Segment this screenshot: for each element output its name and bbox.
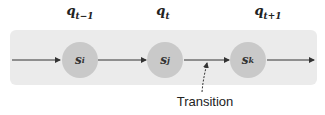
time-label-t-minus-1: qt−1 [66, 3, 93, 21]
time-label-t-plus-1: qt+1 [254, 3, 281, 21]
state-node-sj: sj [147, 42, 183, 78]
time-label-t: qt [156, 3, 169, 21]
transition-pointer [202, 63, 207, 92]
state-node-si: si [62, 42, 98, 78]
transition-label: Transition [177, 94, 234, 109]
state-node-sk: sk [230, 42, 266, 78]
